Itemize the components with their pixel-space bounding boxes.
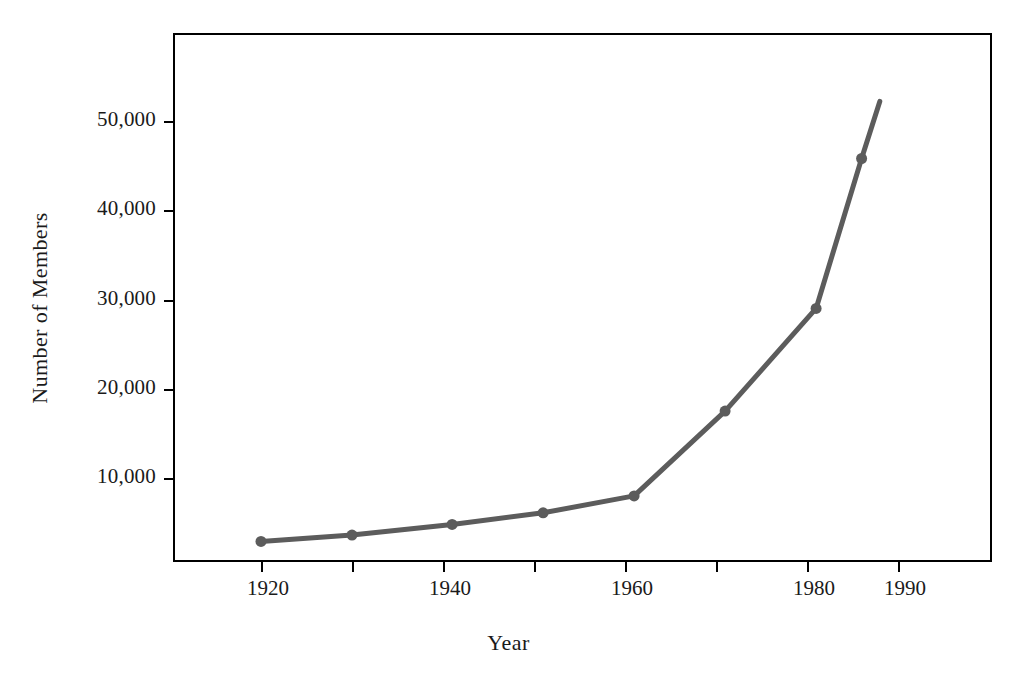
x-tick-mark (534, 562, 536, 572)
x-tick-label: 1920 (247, 576, 289, 600)
y-axis-title: Number of Members (27, 158, 53, 458)
y-tick-mark (164, 210, 173, 212)
y-tick-label: 20,000 (0, 377, 156, 398)
x-tick-label: 1980 (793, 576, 835, 600)
x-tick-label: 1940 (429, 576, 471, 600)
x-tick-mark (807, 562, 809, 572)
x-tick-mark (443, 562, 445, 572)
y-tick-mark (164, 389, 173, 391)
y-tick-mark (164, 300, 173, 302)
chart-figure: 50,000 40,000 30,000 20,000 10,000 1920 … (0, 0, 1017, 681)
y-tick-mark (164, 121, 173, 123)
plot-area-frame (173, 33, 992, 562)
y-tick-label: 50,000 (0, 109, 156, 130)
x-tick-mark (261, 562, 263, 572)
y-tick-label: 10,000 (0, 466, 156, 487)
x-axis-title: Year (0, 630, 1017, 656)
x-tick-label: 1960 (611, 576, 653, 600)
x-tick-mark (625, 562, 627, 572)
x-tick-mark (716, 562, 718, 572)
y-tick-mark (164, 478, 173, 480)
x-tick-mark (352, 562, 354, 572)
y-tick-label: 40,000 (0, 198, 156, 219)
x-tick-mark (898, 562, 900, 572)
y-tick-label: 30,000 (0, 288, 156, 309)
x-tick-label: 1990 (884, 576, 926, 600)
